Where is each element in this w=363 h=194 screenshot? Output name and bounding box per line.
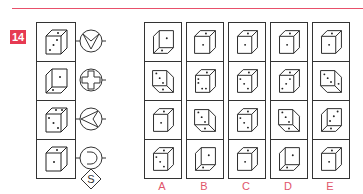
die-icon (229, 23, 265, 61)
option-die (187, 62, 223, 101)
option-die (229, 23, 265, 62)
option-die (187, 140, 223, 178)
die-icon (187, 101, 223, 139)
option-label-d[interactable]: D (270, 180, 306, 192)
option-die (229, 140, 265, 178)
die-icon (271, 101, 307, 139)
circle-cross-icon (76, 65, 106, 95)
key-die-3 (37, 101, 75, 140)
option-die (271, 140, 307, 178)
die-icon (313, 101, 349, 139)
diamond-s-icon: S (80, 168, 102, 190)
die-icon (271, 62, 307, 100)
option-die (313, 62, 349, 101)
die-icon (145, 140, 181, 178)
die-icon (145, 23, 181, 61)
circle-v-icon (76, 26, 106, 56)
option-die (271, 101, 307, 140)
die-icon (271, 140, 307, 178)
option-column-b[interactable] (186, 22, 224, 179)
die-icon (271, 23, 307, 61)
svg-text:S: S (87, 173, 94, 185)
die-icon (37, 62, 75, 100)
die-icon (145, 101, 181, 139)
die-icon (187, 23, 223, 61)
option-die (271, 62, 307, 101)
option-die (187, 23, 223, 62)
option-label-e[interactable]: E (312, 180, 348, 192)
die-icon (37, 23, 75, 61)
circle-arrow-left-icon (76, 104, 106, 134)
option-column-e[interactable] (312, 22, 350, 179)
option-die (229, 62, 265, 101)
option-die (145, 62, 181, 101)
option-die (145, 23, 181, 62)
key-die-2 (37, 62, 75, 101)
option-die (313, 101, 349, 140)
die-icon (187, 140, 223, 178)
option-column-d[interactable] (270, 22, 308, 179)
option-label-a[interactable]: A (144, 180, 180, 192)
key-column (36, 22, 76, 179)
option-die (313, 140, 349, 178)
die-icon (145, 62, 181, 100)
die-icon (37, 140, 75, 178)
option-die (313, 23, 349, 62)
option-die (145, 140, 181, 178)
option-column-c[interactable] (228, 22, 266, 179)
die-icon (313, 23, 349, 61)
die-icon (313, 140, 349, 178)
option-die (229, 101, 265, 140)
key-die-1 (37, 23, 75, 62)
die-icon (229, 101, 265, 139)
die-icon (229, 140, 265, 178)
key-die-4 (37, 140, 75, 178)
die-icon (187, 62, 223, 100)
header-rule (12, 8, 363, 9)
option-label-b[interactable]: B (186, 180, 222, 192)
option-column-a[interactable] (144, 22, 182, 179)
die-icon (313, 62, 349, 100)
question-number-badge: 14 (10, 30, 26, 44)
die-icon (229, 62, 265, 100)
option-die (145, 101, 181, 140)
die-icon (37, 101, 75, 139)
option-label-c[interactable]: C (228, 180, 264, 192)
option-die (187, 101, 223, 140)
option-die (271, 23, 307, 62)
